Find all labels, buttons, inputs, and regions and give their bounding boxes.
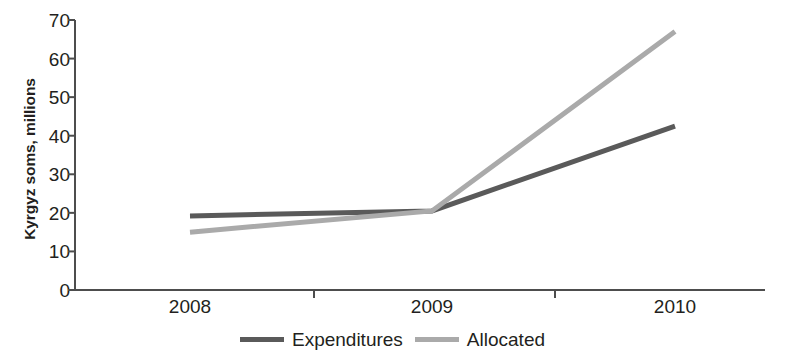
series-line-expenditures (190, 126, 675, 216)
chart-legend: ExpendituresAllocated (0, 330, 785, 349)
x-tick-label: 2008 (169, 297, 211, 316)
legend-label: Expenditures (292, 330, 403, 349)
legend-item[interactable]: Allocated (415, 330, 545, 349)
legend-swatch-icon (415, 337, 459, 342)
x-tick-label: 2010 (654, 297, 696, 316)
series-line-allocated (190, 32, 675, 233)
legend-item[interactable]: Expenditures (240, 330, 403, 349)
line-chart: Kyrgyz soms, millions 010203040506070 20… (0, 0, 785, 356)
x-tick-label: 2009 (411, 297, 453, 316)
legend-swatch-icon (240, 337, 284, 342)
legend-label: Allocated (467, 330, 545, 349)
